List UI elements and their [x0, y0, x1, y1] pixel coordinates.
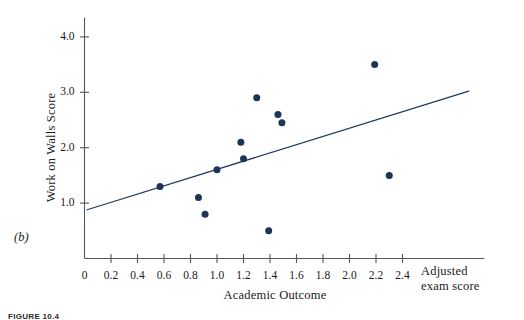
x-axis-title: Academic Outcome [175, 288, 375, 303]
data-point [195, 194, 202, 201]
y-tick-label: 4.0 [41, 31, 75, 43]
x-tick-label: 0.2 [104, 270, 118, 282]
x-tick-label: 1.8 [316, 270, 330, 282]
panel-label: (b) [14, 230, 29, 245]
figure-caption: FIGURE 10.4 [8, 312, 59, 320]
data-point [386, 172, 393, 179]
data-point [237, 139, 244, 146]
data-point [214, 166, 221, 173]
data-point [265, 227, 272, 234]
x-axis-end-label-line2: exam score [421, 279, 517, 294]
data-point [278, 119, 285, 126]
x-tick-label: 0.8 [183, 270, 197, 282]
data-point [253, 94, 260, 101]
x-tick-label: 0.6 [157, 270, 171, 282]
x-tick-label: 1.0 [210, 270, 224, 282]
x-tick-label: 2.2 [369, 270, 383, 282]
x-tick-label: 1.4 [263, 270, 277, 282]
x-axis-end-label: Adjusted exam score [421, 264, 517, 294]
x-tick-label: 0.4 [130, 270, 144, 282]
x-tick-label: 2.0 [342, 270, 356, 282]
data-point [240, 155, 247, 162]
x-tick-label: 1.6 [289, 270, 303, 282]
data-point [371, 61, 378, 68]
regression-line [87, 91, 469, 210]
x-axis-end-label-line1: Adjusted [421, 264, 517, 279]
data-point [157, 183, 164, 190]
data-points [157, 61, 393, 234]
data-point [274, 111, 281, 118]
x-tick-label: 1.2 [236, 270, 250, 282]
axes [80, 18, 484, 263]
figure-panel-b: 1.02.03.04.000.20.40.60.81.01.21.41.61.8… [0, 0, 524, 320]
data-point [202, 211, 209, 218]
x-tick-label: 0 [82, 270, 88, 282]
y-axis-title: Work on Walls Score [44, 53, 59, 243]
x-tick-label: 2.4 [395, 270, 409, 282]
